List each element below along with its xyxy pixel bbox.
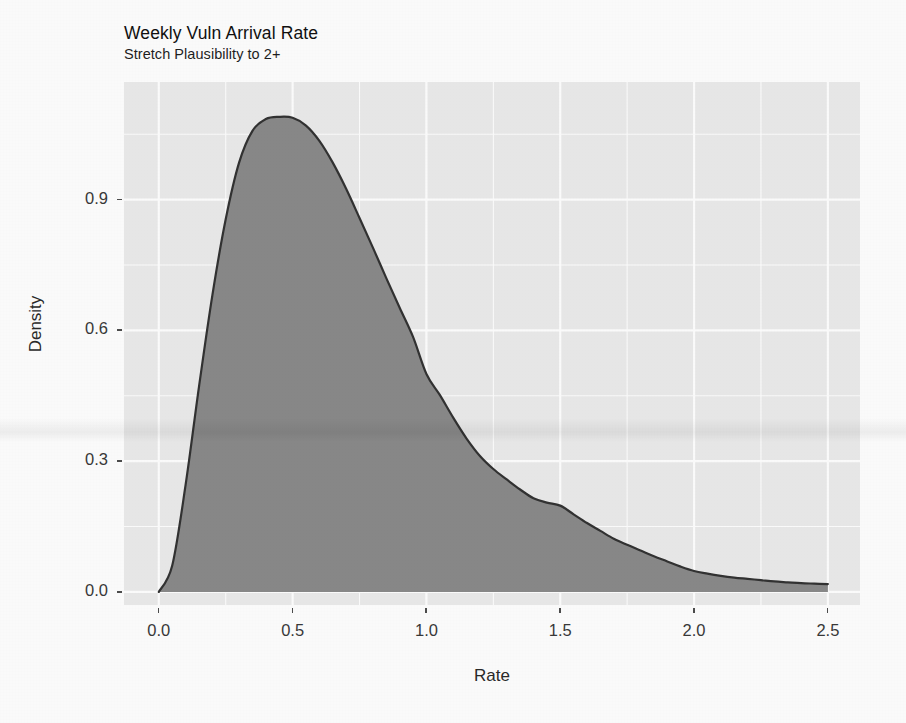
chart-title-block: Weekly Vuln Arrival Rate Stretch Plausib… bbox=[124, 22, 864, 64]
y-tick-mark bbox=[117, 460, 122, 462]
x-tick-label: 0.0 bbox=[124, 621, 194, 640]
y-tick-label: 0.0 bbox=[48, 581, 108, 600]
x-axis-title: Rate bbox=[124, 666, 860, 686]
y-tick-label: 0.6 bbox=[48, 319, 108, 338]
x-tick-mark bbox=[425, 608, 427, 613]
x-tick-mark bbox=[158, 608, 160, 613]
x-tick-label: 2.0 bbox=[659, 621, 729, 640]
y-axis-title: Density bbox=[26, 264, 46, 384]
page-title: Weekly Vuln Arrival Rate bbox=[124, 22, 864, 44]
x-tick-label: 1.5 bbox=[525, 621, 595, 640]
y-tick-label: 0.9 bbox=[48, 189, 108, 208]
y-tick-mark bbox=[117, 199, 122, 201]
plot-panel bbox=[124, 82, 860, 605]
chart-subtitle: Stretch Plausibility to 2+ bbox=[124, 44, 864, 64]
y-tick-mark bbox=[117, 591, 122, 593]
x-tick-label: 2.5 bbox=[793, 621, 863, 640]
x-tick-mark bbox=[693, 608, 695, 613]
density-chart-figure: Weekly Vuln Arrival Rate Stretch Plausib… bbox=[0, 0, 906, 723]
x-tick-mark bbox=[559, 608, 561, 613]
x-tick-mark bbox=[292, 608, 294, 613]
x-tick-mark bbox=[827, 608, 829, 613]
x-tick-label: 1.0 bbox=[391, 621, 461, 640]
plot-area-svg bbox=[124, 82, 860, 605]
x-tick-label: 0.5 bbox=[258, 621, 328, 640]
y-tick-mark bbox=[117, 329, 122, 331]
y-tick-label: 0.3 bbox=[48, 450, 108, 469]
